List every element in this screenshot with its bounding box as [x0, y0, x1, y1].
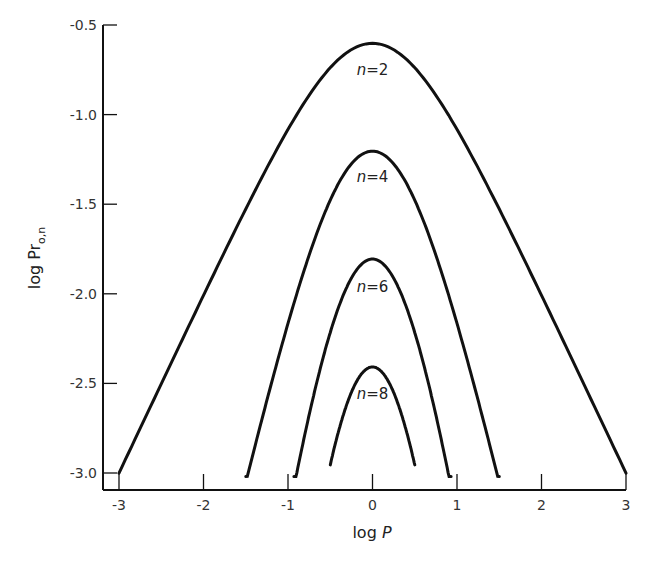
y-tick-label: -2.5: [70, 375, 97, 391]
curve-label: n=8: [357, 385, 389, 403]
axes: -0.5-1.0-1.5-2.0-2.5-3.0-3-2-10123: [70, 17, 631, 513]
chart: -0.5-1.0-1.5-2.0-2.5-3.0-3-2-10123 n=2n=…: [0, 0, 652, 561]
y-tick-label: -1.5: [70, 196, 97, 212]
curve-label: n=4: [357, 168, 389, 186]
curve-labels: n=2n=4n=6n=8: [357, 61, 389, 403]
x-tick-label: 2: [537, 497, 546, 513]
y-tick-label: -2.0: [70, 286, 97, 302]
y-axis-title: log Pro,n: [25, 227, 48, 290]
x-tick-label: 1: [453, 497, 462, 513]
curve-n=8: [330, 367, 415, 465]
x-tick-label: -2: [197, 497, 211, 513]
y-tick-label: -1.0: [70, 107, 97, 123]
x-tick-label: 3: [622, 497, 631, 513]
x-axis-title: log P: [352, 523, 391, 542]
curves: [119, 43, 626, 476]
y-tick-label: -3.0: [70, 465, 97, 481]
svg-text:log Pro,n: log Pro,n: [25, 227, 48, 290]
curve-label: n=2: [357, 61, 389, 79]
x-tick-label: 0: [368, 497, 377, 513]
curve-n=4: [246, 151, 499, 476]
x-tick-label: -1: [281, 497, 295, 513]
y-tick-label: -0.5: [70, 17, 97, 33]
curve-label: n=6: [357, 278, 389, 296]
x-tick-label: -3: [112, 497, 126, 513]
